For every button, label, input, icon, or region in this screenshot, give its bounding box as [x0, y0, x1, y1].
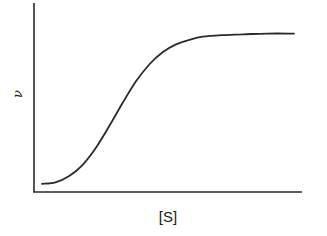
y-axis-label: ν: [10, 90, 25, 98]
chart: [S] ν: [0, 0, 327, 236]
x-axis-label: [S]: [159, 208, 177, 225]
series-line-saturation-curve: [42, 34, 294, 184]
